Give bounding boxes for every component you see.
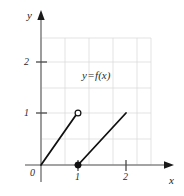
- x-tick-label-2: 2: [123, 172, 128, 182]
- y-axis-arrow-icon: [37, 10, 44, 20]
- x-tick-label-1: 1: [75, 172, 80, 182]
- series-segment-1: [41, 110, 81, 165]
- series-segment-2: [75, 113, 126, 168]
- function-annotation-fx: f(x): [95, 69, 110, 81]
- figure-container: y x 0 1 2 1 2 y=f(x): [0, 0, 184, 196]
- origin-tick-label: 0: [30, 168, 35, 178]
- filled-circle-marker: [75, 162, 81, 168]
- x-axis-label: x: [169, 175, 174, 186]
- function-graph-plot: [0, 0, 184, 196]
- y-axis-label: y: [27, 10, 32, 21]
- function-annotation-equals: =: [87, 69, 95, 81]
- open-circle-marker: [75, 110, 81, 116]
- y-tick-label-1: 1: [24, 108, 29, 118]
- y-axis: [37, 10, 44, 182]
- x-axis: [25, 161, 174, 168]
- y-tick-label-2: 2: [24, 57, 29, 67]
- function-annotation: y=f(x): [82, 70, 110, 81]
- x-axis-arrow-icon: [164, 161, 174, 168]
